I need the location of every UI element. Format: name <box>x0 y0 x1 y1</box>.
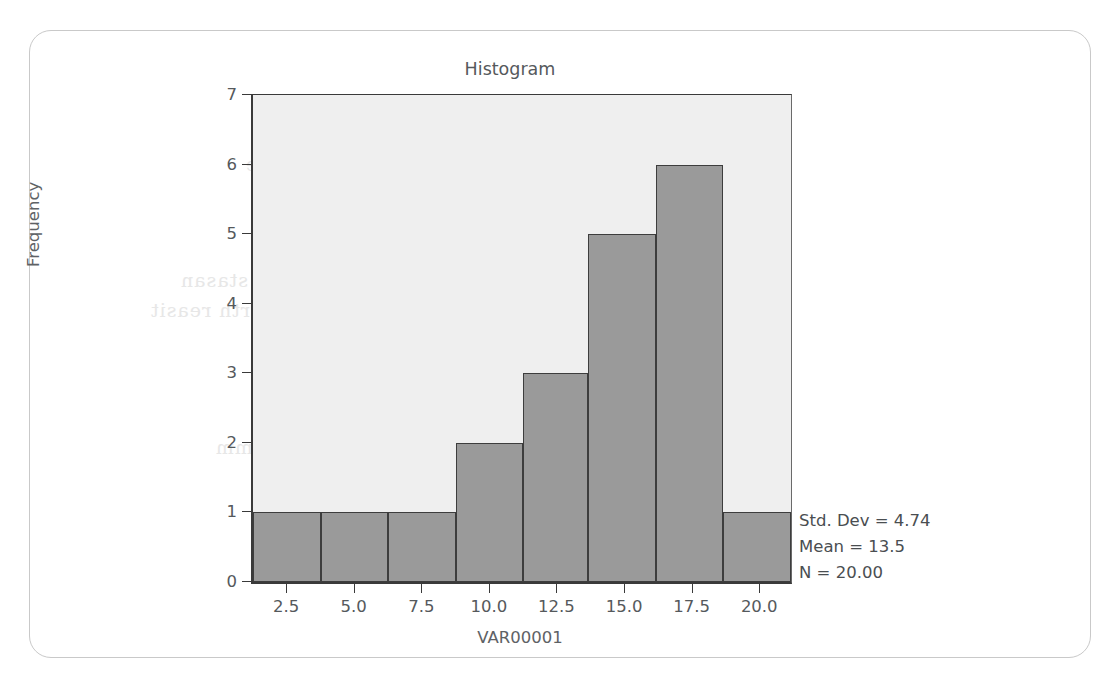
std-dev-text: Std. Dev = 4.74 <box>799 508 931 534</box>
x-axis-tick-label: 5.0 <box>324 597 384 616</box>
histogram-bar <box>456 443 524 582</box>
histogram-bar <box>588 234 656 582</box>
chart-title: Histogram <box>230 59 790 79</box>
x-axis-tick <box>421 582 422 593</box>
x-axis-tick-label: 15.0 <box>594 597 654 616</box>
y-axis-tick-label: 0 <box>197 572 237 591</box>
histogram-bar <box>723 512 791 582</box>
y-axis-tick-label: 2 <box>197 432 237 451</box>
y-axis-tick-label: 1 <box>197 502 237 521</box>
y-axis-tick-label: 7 <box>197 85 237 104</box>
histogram-bar <box>253 512 321 582</box>
x-axis-tick <box>692 582 693 593</box>
histogram-bar <box>523 373 588 582</box>
y-axis-tick-label: 5 <box>197 224 237 243</box>
x-axis-label: VAR00001 <box>251 628 789 647</box>
histogram-bar <box>321 512 389 582</box>
chart-card: ancient latent nature amiro nn stasan an… <box>29 30 1091 658</box>
x-axis-tick <box>489 582 490 593</box>
x-axis-tick <box>286 582 287 593</box>
histogram-bar <box>656 165 724 582</box>
mean-text: Mean = 13.5 <box>799 534 931 560</box>
histogram-bar <box>388 512 456 582</box>
n-text: N = 20.00 <box>799 560 931 586</box>
statistics-annotation: Std. Dev = 4.74 Mean = 13.5 N = 20.00 <box>799 508 931 586</box>
x-axis-tick <box>759 582 760 593</box>
y-axis-tick-label: 3 <box>197 363 237 382</box>
histogram-bars <box>253 95 791 582</box>
x-axis-tick <box>354 582 355 593</box>
x-axis-tick-label: 10.0 <box>459 597 519 616</box>
x-axis-tick <box>556 582 557 593</box>
x-axis-tick-label: 20.0 <box>729 597 789 616</box>
y-axis-label: Frequency <box>24 182 43 267</box>
y-axis-tick-label: 4 <box>197 293 237 312</box>
histogram-figure: Histogram Frequency 01234567 2.55.07.510… <box>30 31 1092 659</box>
y-axis-tick-label: 6 <box>197 154 237 173</box>
x-axis-tick-label: 7.5 <box>391 597 451 616</box>
plot-area <box>251 94 792 584</box>
x-axis-tick-label: 17.5 <box>662 597 722 616</box>
x-axis-tick <box>624 582 625 593</box>
x-axis-tick-label: 12.5 <box>526 597 586 616</box>
x-axis-tick-label: 2.5 <box>256 597 316 616</box>
